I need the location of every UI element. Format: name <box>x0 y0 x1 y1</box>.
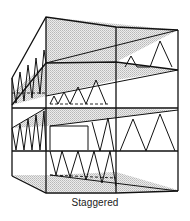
truss-right-mid-2 <box>120 114 175 151</box>
staggered-truss-diagram <box>0 0 190 221</box>
truss-right-mid <box>92 118 114 151</box>
floor-slabs <box>12 17 178 192</box>
figure-caption: Staggered <box>0 197 190 208</box>
roof-slab <box>46 17 178 63</box>
